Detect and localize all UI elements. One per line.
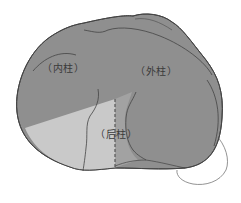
label-lateral-column: （外柱） — [135, 63, 177, 78]
label-medial-column: （内柱） — [42, 60, 84, 75]
label-posterior-column: （后柱） — [95, 126, 137, 141]
tibial-plateau-diagram — [0, 0, 241, 203]
